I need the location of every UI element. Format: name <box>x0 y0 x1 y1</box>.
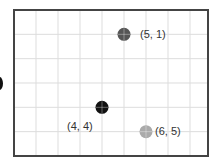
point-label-4-4: (4, 4) <box>67 120 93 132</box>
coordinate-grid-diagram: (5, 1) (4, 4) (6, 5) <box>0 0 214 168</box>
point-label-6-5: (6, 5) <box>155 125 181 137</box>
point-label-5-1: (5, 1) <box>140 28 166 40</box>
grid-canvas <box>0 0 214 168</box>
